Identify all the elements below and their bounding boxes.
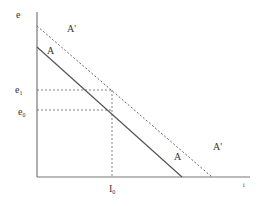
e0-label: e0 [18,106,25,118]
e1-label: e1 [15,84,22,96]
line-A [37,47,182,177]
i0-label: I0 [109,183,115,195]
A-prime-label-top: A' [67,23,76,34]
A-label-top: A [47,45,55,56]
A-label-bottom: A [174,151,182,162]
diagram-canvas: e i A' A A A' e1 e0 I0 [0,0,262,204]
y-axis-label: e [16,9,21,20]
line-A-prime [37,26,212,177]
A-prime-label-bottom: A' [213,141,222,152]
x-axis-label: i [243,182,245,188]
